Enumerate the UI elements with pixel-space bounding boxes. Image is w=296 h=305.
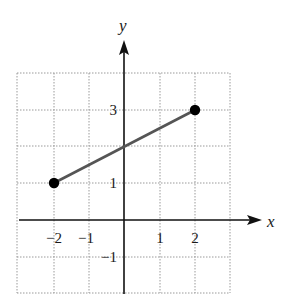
x-axis	[19, 215, 262, 225]
y-tick-1: 1	[110, 175, 118, 191]
y-axis-label: y	[117, 16, 127, 35]
x-tick-1: 1	[156, 230, 164, 246]
x-tick-neg1: −1	[78, 230, 94, 246]
y-tick-neg1: −1	[101, 249, 117, 265]
point-neg2-1	[49, 178, 59, 188]
point-2-3	[190, 105, 200, 115]
y-axis	[119, 40, 129, 294]
y-tick-3: 3	[110, 102, 118, 118]
x-tick-2: 2	[191, 230, 199, 246]
coordinate-plane: x y −2 −1 1 2 3 1 −1	[0, 0, 296, 305]
x-axis-label: x	[266, 212, 275, 231]
x-tick-neg2: −2	[46, 230, 62, 246]
